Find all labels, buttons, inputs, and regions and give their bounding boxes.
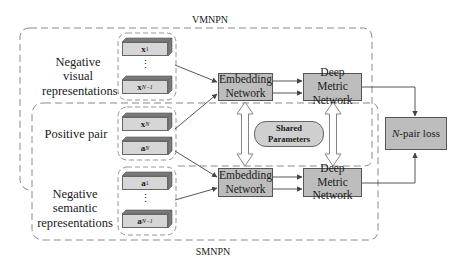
embedding-network-top: EmbeddingNetwork: [218, 73, 273, 101]
embedding-network-bottom: EmbeddingNetwork: [218, 168, 273, 197]
stack-a1: a1: [122, 176, 168, 190]
n-pair-loss: N-pair loss: [385, 117, 447, 150]
semantic-ellipsis: ⋮: [140, 196, 150, 200]
visual-ellipsis: ⋮: [140, 62, 150, 66]
stack-xN-1: xN−1: [122, 80, 168, 94]
stack-aN: aN: [122, 141, 168, 155]
shared-parameters: SharedParameters: [254, 121, 324, 147]
deep-metric-network-top: Deep MetricNetwork: [303, 73, 362, 101]
shared-arrow-embedding: [237, 102, 253, 166]
shared-arrow-metric: [325, 102, 341, 166]
stack-x1: x1: [122, 42, 168, 56]
deep-metric-network-bottom: Deep MetricNetwork: [303, 168, 362, 197]
smnpn-label: SMNPN: [183, 246, 243, 258]
stack-xN: xN: [122, 117, 168, 131]
vmnpn-label: VMNPN: [180, 14, 240, 26]
negative-visual-label: Negative visual representations: [42, 55, 114, 98]
positive-pair-label: Positive pair: [36, 127, 116, 141]
stack-aN-1: aN−1: [122, 214, 168, 228]
negative-semantic-label: Negative semantic representations: [34, 187, 116, 230]
